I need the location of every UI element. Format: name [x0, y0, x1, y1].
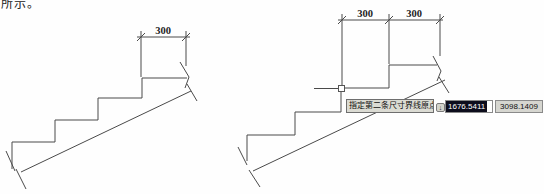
left-stringer-line: [21, 91, 191, 172]
left-dimension: 300: [137, 25, 190, 77]
selected-x-value: 1676.5411: [446, 101, 487, 112]
cad-canvas[interactable]: 300: [0, 0, 544, 194]
left-stair-drawing: 300: [6, 25, 197, 189]
left-break-marks: [6, 62, 197, 189]
crosshair-pickbox-cursor: [314, 86, 345, 92]
right-stringer-line: [253, 80, 445, 171]
left-stair-outline: [12, 78, 187, 169]
right-dimension: 300 300: [338, 8, 444, 85]
dimension-x-input[interactable]: 1676.5411: [445, 100, 493, 113]
text-cursor: [487, 101, 491, 112]
dimension-value-2: 300: [406, 8, 422, 19]
cad-drawing-area: 所示。 300: [0, 0, 544, 194]
dimension-y-input[interactable]: 3098.1409: [495, 100, 543, 113]
down-arrow-key-icon: ↓: [436, 103, 445, 112]
dimension-value-1: 300: [357, 8, 373, 19]
dimension-value: 300: [155, 25, 171, 36]
dynamic-input-prompt: 指定第二条尺寸界线原点或: [346, 99, 434, 113]
right-break-marks: [238, 56, 449, 187]
right-stair-drawing: 300 300: [238, 8, 449, 187]
